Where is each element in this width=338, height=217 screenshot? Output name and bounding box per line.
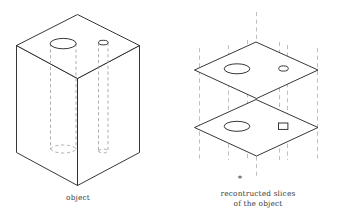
slices-caption-line-1: recontructed slices [221,189,296,198]
ink-speck [238,176,242,179]
object-drawing: object [17,15,140,203]
small-hole-mouth [99,40,109,45]
slices-caption-line-2: of the object [234,199,283,208]
lower-slice-small-hole [279,123,288,129]
technical-figure: object recontructed slices of the object [0,0,338,217]
slices-drawing: recontructed slices of the object [195,12,319,208]
upper-slice-plane [195,42,319,99]
lower-slice-large-hole [224,121,250,131]
lower-slice-plane [195,100,319,157]
upper-slice-small-hole [279,66,289,71]
upper-slice-large-hole [224,64,250,74]
large-hole-mouth [50,38,76,48]
object-caption: object [66,193,90,202]
